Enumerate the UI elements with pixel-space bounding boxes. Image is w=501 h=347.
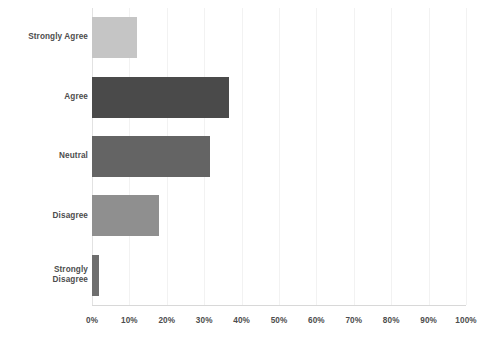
category-label-line: Disagree bbox=[4, 275, 88, 286]
bar-row bbox=[92, 195, 466, 236]
bar-strongly-disagree[interactable] bbox=[92, 255, 99, 296]
y-axis-category-labels: Strongly AgreeAgreeNeutralDisagreeStrong… bbox=[0, 8, 88, 305]
bar-row bbox=[92, 136, 466, 177]
bar-neutral[interactable] bbox=[92, 136, 210, 177]
x-tick-label-100: 100% bbox=[455, 316, 476, 325]
x-tick-label-40: 40% bbox=[233, 316, 250, 325]
x-tick-label-90: 90% bbox=[420, 316, 437, 325]
category-label-strongly-disagree: StronglyDisagree bbox=[4, 265, 88, 286]
x-tick-label-80: 80% bbox=[383, 316, 400, 325]
category-label-agree: Agree bbox=[4, 92, 88, 103]
bar-chart: Strongly AgreeAgreeNeutralDisagreeStrong… bbox=[0, 0, 501, 347]
x-tick-label-0: 0% bbox=[86, 316, 98, 325]
x-tick-label-50: 50% bbox=[271, 316, 288, 325]
x-axis-line bbox=[92, 305, 466, 306]
x-tick-label-10: 10% bbox=[121, 316, 138, 325]
x-axis-tick-labels: 0%10%20%30%40%50%60%70%80%90%100% bbox=[92, 316, 466, 330]
bar-row bbox=[92, 77, 466, 118]
category-label-disagree: Disagree bbox=[4, 211, 88, 222]
x-tick-label-70: 70% bbox=[345, 316, 362, 325]
gridline-100 bbox=[466, 8, 467, 305]
bar-row bbox=[92, 255, 466, 296]
bar-strongly-agree[interactable] bbox=[92, 17, 137, 58]
bar-disagree[interactable] bbox=[92, 195, 159, 236]
x-tick-label-60: 60% bbox=[308, 316, 325, 325]
category-label-line: Strongly bbox=[4, 265, 88, 276]
category-label-strongly-agree: Strongly Agree bbox=[4, 32, 88, 43]
plot-area bbox=[92, 8, 466, 305]
bar-agree[interactable] bbox=[92, 77, 229, 118]
bar-row bbox=[92, 17, 466, 58]
x-tick-label-20: 20% bbox=[158, 316, 175, 325]
category-label-neutral: Neutral bbox=[4, 151, 88, 162]
x-tick-label-30: 30% bbox=[196, 316, 213, 325]
